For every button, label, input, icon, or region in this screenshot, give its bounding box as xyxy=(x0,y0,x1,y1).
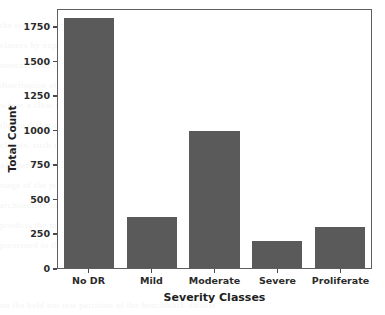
x-tick-label: Proliferate xyxy=(309,275,372,286)
bar-slot xyxy=(58,10,121,268)
x-axis-tick: Severe xyxy=(246,269,309,287)
x-tick-label: Moderate xyxy=(183,275,246,286)
x-tick-mark xyxy=(151,269,153,273)
x-axis-tick: No DR xyxy=(57,269,120,287)
bar-slot xyxy=(308,10,371,268)
bar-proliferate xyxy=(315,227,365,268)
bar-group xyxy=(58,10,371,268)
x-tick-label: Mild xyxy=(120,275,183,286)
y-tick-label: 1500 xyxy=(24,56,50,67)
y-tick-label: 250 xyxy=(30,228,50,239)
bar-slot xyxy=(183,10,246,268)
bar-severe xyxy=(252,241,302,268)
bar-no-dr xyxy=(64,18,114,268)
plot-area xyxy=(57,9,372,269)
x-axis-tick: Mild xyxy=(120,269,183,287)
x-tick-label: Severe xyxy=(246,275,309,286)
bar-mild xyxy=(127,217,177,268)
y-tick-label: 1750 xyxy=(24,21,50,32)
y-tick-label: 0 xyxy=(43,263,50,274)
x-tick-mark xyxy=(340,269,342,273)
bar-slot xyxy=(246,10,309,268)
x-axis-tick: Proliferate xyxy=(309,269,372,287)
x-tick-mark xyxy=(88,269,90,273)
x-tick-mark xyxy=(277,269,279,273)
x-tick-mark xyxy=(214,269,216,273)
y-axis-ticks: 02505007501000125015001750 xyxy=(0,0,57,278)
bar-moderate xyxy=(189,131,239,268)
x-axis-tick: Moderate xyxy=(183,269,246,287)
y-tick-label: 1000 xyxy=(24,125,50,136)
x-axis-label: Severity Classes xyxy=(57,291,372,304)
x-axis-ticks: No DRMildModerateSevereProliferate xyxy=(57,269,372,287)
y-tick-label: 750 xyxy=(30,159,50,170)
y-tick-label: 500 xyxy=(30,194,50,205)
bar-slot xyxy=(121,10,184,268)
y-tick-label: 1250 xyxy=(24,90,50,101)
x-tick-label: No DR xyxy=(57,275,120,286)
bar-chart-figure: Total Count 02505007501000125015001750 N… xyxy=(0,0,385,315)
